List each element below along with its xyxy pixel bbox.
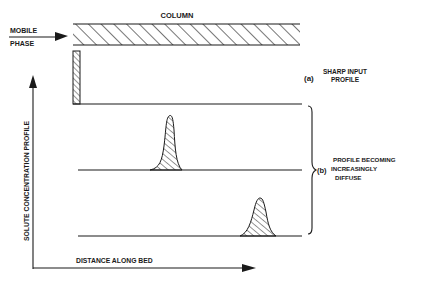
y-axis	[29, 75, 37, 269]
x-axis-arrow-icon	[242, 264, 256, 272]
diffusing-profile-2	[78, 198, 302, 236]
cropped-caption	[40, 279, 380, 287]
column-label: COLUMN	[161, 11, 194, 20]
annotation-a-line1: SHARP INPUT	[323, 68, 367, 75]
diffusing-profile-1	[78, 116, 302, 170]
annotation-a-line2: PROFILE	[331, 76, 360, 83]
sharp-input-profile	[73, 51, 302, 104]
mobile-phase-label-line1: MOBILE	[10, 27, 38, 34]
annotation-b-line2: INCREASINGLY	[331, 165, 378, 172]
annotation-b-line1: PROFILE BECOMING	[333, 156, 396, 163]
annotation-b-marker: (b)	[317, 166, 327, 175]
x-axis	[33, 264, 256, 272]
chromatography-band-broadening-diagram: COLUMN MOBILE PHASE (a) SHARP INPUT PROF…	[0, 0, 424, 287]
x-axis-label: DISTANCE ALONG BED	[76, 257, 153, 264]
annotation-b-line3: DIFFUSE	[335, 174, 361, 181]
y-axis-label: SOLUTE CONCENTRATION PROFILE	[23, 121, 30, 241]
brace-icon	[308, 106, 316, 234]
annotation-a-marker: (a)	[304, 74, 314, 83]
y-axis-arrow-icon	[29, 75, 37, 88]
mobile-phase-label-line2: PHASE	[10, 40, 34, 47]
column	[73, 24, 300, 45]
